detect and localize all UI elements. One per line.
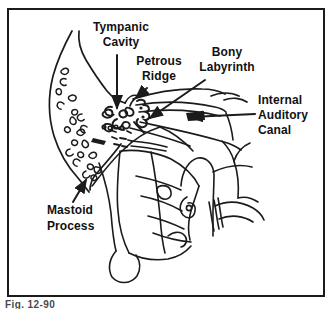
- figure-caption: Fig. 12-90: [5, 299, 55, 309]
- figure-page: Tympanic Cavity Petrous Ridge Bony Labyr…: [0, 0, 331, 309]
- temporal-bone-diagram: [0, 0, 331, 309]
- label-internal-auditory-canal: Internal Auditory Canal: [258, 93, 324, 138]
- label-mastoid-process: Mastoid Process: [47, 202, 117, 234]
- label-petrous-ridge: Petrous Ridge: [123, 54, 195, 84]
- skull-base-lines: [92, 113, 264, 283]
- mastoid-process-arrow: [73, 180, 86, 202]
- label-bony-labyrinth: Bony Labyrinth: [190, 45, 264, 75]
- label-tympanic-cavity: Tympanic Cavity: [84, 20, 158, 50]
